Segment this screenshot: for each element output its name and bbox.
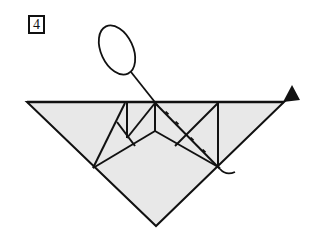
arrow-loop	[92, 20, 143, 81]
origami-diagram	[0, 0, 314, 246]
arrowhead-icon	[283, 85, 300, 102]
